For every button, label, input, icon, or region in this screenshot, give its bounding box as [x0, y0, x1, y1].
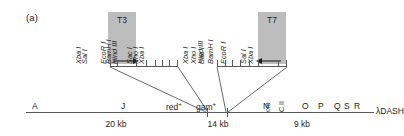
- site-tick-right-4: [240, 60, 241, 67]
- gene-label-P: P: [318, 101, 324, 111]
- gene-label-Q: Q: [334, 101, 341, 111]
- site-tick-right-1: [217, 60, 218, 67]
- promoter-label-t3: T3: [108, 15, 136, 25]
- genome-junction-tick-right: [227, 108, 228, 117]
- site-tick-right-8: [286, 60, 287, 67]
- polylinker-rule-left: [110, 66, 178, 67]
- vector-name-label: λDASH: [376, 106, 404, 116]
- site-tick-left-3: [136, 60, 137, 67]
- site-tick-right-2: [225, 60, 226, 67]
- panel-label: (a): [26, 12, 38, 23]
- site-tick-left-2: [117, 60, 118, 67]
- site-tick-left-7: [169, 60, 170, 67]
- site-tick-right-7: [278, 60, 279, 67]
- gene-label-O: O: [302, 101, 309, 111]
- segment-size-stuffer: 14 kb: [178, 119, 258, 129]
- gene-label-S: S: [344, 101, 350, 111]
- site-tick-left-4: [146, 60, 147, 67]
- site-tick-right-5: [249, 60, 250, 67]
- gene-label-gam: gam+: [196, 101, 216, 112]
- segment-size-right-arm: 9 kb: [262, 119, 342, 129]
- gene-label-R: R: [354, 101, 360, 111]
- site-tick-right-6: [258, 60, 259, 67]
- gene-label-cII: C II: [278, 101, 288, 112]
- gene-label-J: J: [121, 101, 125, 111]
- site-tick-right-3: [232, 60, 233, 67]
- site-tick-left-5: [155, 60, 156, 67]
- segment-size-left-arm: 20 kb: [76, 119, 156, 129]
- promoter-label-t7: T7: [258, 15, 286, 25]
- genome-line: [26, 112, 374, 113]
- gene-label-red: red+: [166, 101, 182, 112]
- polylinker-rule-right: [217, 66, 287, 67]
- site-tick-left-8: [177, 60, 178, 67]
- site-tick-left-1: [110, 60, 111, 67]
- gene-label-cro: cro: [264, 102, 274, 112]
- site-tick-left-6: [162, 60, 163, 67]
- gene-label-A: A: [32, 101, 38, 111]
